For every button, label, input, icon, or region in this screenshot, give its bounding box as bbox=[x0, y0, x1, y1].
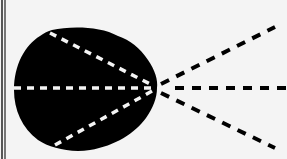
diagram-canvas bbox=[0, 0, 287, 159]
diagram-svg bbox=[0, 0, 287, 159]
